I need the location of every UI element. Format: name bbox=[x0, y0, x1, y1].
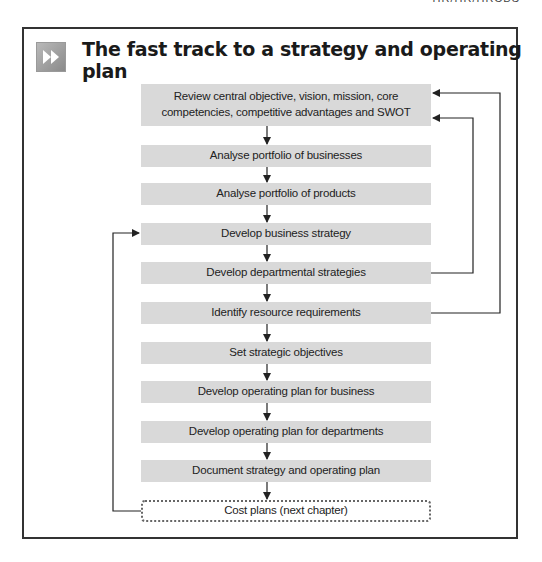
step-identify-resource-requirements: Identify resource requirements bbox=[141, 302, 431, 324]
step-document-strategy: Document strategy and operating plan bbox=[141, 460, 431, 482]
step-develop-business-strategy: Develop business strategy bbox=[141, 223, 431, 245]
step-operating-plan-business: Develop operating plan for business bbox=[141, 381, 431, 403]
step-develop-departmental-strategies: Develop departmental strategies bbox=[141, 262, 431, 284]
step-analyse-businesses: Analyse portfolio of businesses bbox=[141, 145, 431, 167]
step-operating-plan-departments: Develop operating plan for departments bbox=[141, 421, 431, 443]
step-set-strategic-objectives: Set strategic objectives bbox=[141, 342, 431, 364]
step-cost-plans: Cost plans (next chapter) bbox=[141, 500, 431, 522]
step-review-objectives: Review central objective, vision, missio… bbox=[141, 84, 431, 126]
step-analyse-products: Analyse portfolio of products bbox=[141, 183, 431, 205]
